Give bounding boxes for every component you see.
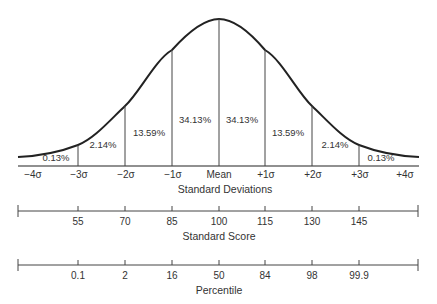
standard-score-tick-label: 145 bbox=[351, 216, 368, 227]
sigma-tick-label: +4σ bbox=[396, 169, 414, 180]
region-pct-label: 13.59% bbox=[272, 127, 304, 138]
percentile-tick-label: 2 bbox=[122, 270, 128, 281]
region-pct-label: 2.14% bbox=[90, 139, 117, 150]
percentile-title: Percentile bbox=[196, 284, 243, 296]
percentile-tick-label: 16 bbox=[166, 270, 177, 281]
percentile-tick-label: 99.9 bbox=[349, 270, 368, 281]
standard-score-tick-label: 115 bbox=[257, 216, 273, 227]
sigma-tick-label: −4σ bbox=[24, 169, 42, 180]
percentile-tick-label: 50 bbox=[213, 270, 224, 281]
standard-score-tick-label: 100 bbox=[211, 216, 228, 227]
region-pct-label: 34.13% bbox=[226, 114, 258, 125]
region-pct-label: 2.14% bbox=[322, 139, 349, 150]
sigma-tick-label: +2σ bbox=[304, 169, 322, 180]
standard-score-tick-label: 70 bbox=[119, 216, 130, 227]
sigma-tick-label: −1σ bbox=[164, 169, 182, 180]
standard-score-title: Standard Score bbox=[183, 230, 256, 242]
sigma-tick-label: Mean bbox=[206, 169, 231, 180]
standard-score-tick-label: 55 bbox=[72, 216, 83, 227]
standard-score-tick-label: 130 bbox=[304, 216, 321, 227]
standard-score-tick-label: 85 bbox=[166, 216, 177, 227]
sigma-tick-label: −2σ bbox=[117, 169, 135, 180]
sigma-tick-label: +1σ bbox=[257, 169, 275, 180]
sigma-tick-label: +3σ bbox=[351, 169, 369, 180]
percentile-tick-label: 0.1 bbox=[71, 270, 85, 281]
region-pct-label: 0.13% bbox=[368, 152, 395, 163]
region-pct-label: 0.13% bbox=[43, 152, 70, 163]
region-pct-label: 13.59% bbox=[133, 127, 165, 138]
sigma-tick-label: −3σ bbox=[70, 169, 88, 180]
region-pct-label: 34.13% bbox=[179, 114, 211, 125]
standard-deviations-title: Standard Deviations bbox=[178, 183, 273, 195]
percentile-tick-label: 84 bbox=[259, 270, 270, 281]
percentile-tick-label: 98 bbox=[306, 270, 317, 281]
